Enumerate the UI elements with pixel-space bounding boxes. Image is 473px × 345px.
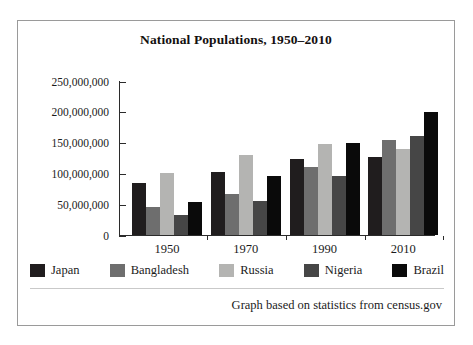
bar-bangladesh-1970[interactable] [225,194,239,235]
figure-caption: Graph based on statistics from census.go… [232,298,442,313]
bar-nigeria-1970[interactable] [253,201,267,235]
y-axis-tick [119,236,126,237]
legend-swatch-icon [110,264,125,277]
bar-brazil-1990[interactable] [346,143,360,235]
bar-russia-1950[interactable] [160,173,174,235]
y-axis-tick-label: 150,000,000 [52,137,110,149]
chart-legend: JapanBangladeshRussiaNigeriaBrazil [30,263,444,278]
y-axis-tick-label: 100,000,000 [52,168,110,180]
bar-japan-2010[interactable] [368,157,382,235]
legend-item-japan[interactable]: Japan [30,263,79,278]
x-axis-label-2010: 2010 [363,242,443,257]
legend-swatch-icon [219,264,234,277]
x-axis-label-1950: 1950 [127,242,207,257]
chart-title: National Populations, 1950–2010 [18,32,454,48]
figure-frame: National Populations, 1950–2010 050,000,… [17,20,455,326]
x-axis-line [119,235,435,236]
bar-japan-1950[interactable] [132,183,146,235]
x-axis-label-1970: 1970 [206,242,286,257]
bar-brazil-2010[interactable] [424,112,438,235]
bar-bangladesh-1950[interactable] [146,207,160,235]
bar-russia-1970[interactable] [239,155,253,235]
plot-area: 050,000,000100,000,000150,000,000200,000… [119,81,435,236]
bar-nigeria-1990[interactable] [332,176,346,235]
legend-swatch-icon [304,264,319,277]
bar-bangladesh-1990[interactable] [304,167,318,235]
bar-group [132,81,202,235]
legend-label: Brazil [413,263,444,278]
bar-nigeria-2010[interactable] [410,136,424,235]
legend-item-brazil[interactable]: Brazil [392,263,444,278]
bar-russia-1990[interactable] [318,144,332,235]
bar-brazil-1950[interactable] [188,202,202,235]
bars-layer [120,81,435,235]
bar-group [211,81,281,235]
legend-item-russia[interactable]: Russia [219,263,273,278]
legend-label: Japan [51,263,79,278]
bar-brazil-1970[interactable] [267,176,281,235]
bar-russia-2010[interactable] [396,149,410,235]
bar-group [290,81,360,235]
bar-group [368,81,438,235]
bar-bangladesh-2010[interactable] [382,140,396,235]
legend-swatch-icon [392,264,407,277]
bar-japan-1970[interactable] [211,172,225,235]
legend-label: Russia [240,263,273,278]
y-axis-tick-label: 50,000,000 [57,199,109,211]
legend-label: Nigeria [325,263,362,278]
bar-nigeria-1950[interactable] [174,215,188,235]
legend-item-bangladesh[interactable]: Bangladesh [110,263,189,278]
bar-japan-1990[interactable] [290,159,304,235]
y-axis-tick-label: 250,000,000 [52,76,110,88]
legend-swatch-icon [30,264,45,277]
x-axis-tick [286,236,287,240]
y-axis-tick-label: 200,000,000 [52,106,110,118]
caption-divider [30,288,444,289]
x-axis-tick [207,236,208,240]
y-axis-tick-label: 0 [103,230,109,242]
x-axis-tick [443,236,444,240]
x-axis-tick [365,236,366,240]
legend-label: Bangladesh [131,263,189,278]
legend-item-nigeria[interactable]: Nigeria [304,263,362,278]
x-axis-label-1990: 1990 [285,242,365,257]
